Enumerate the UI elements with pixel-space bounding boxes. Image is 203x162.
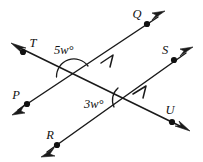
arrowhead-R-icon (41, 148, 55, 157)
arrowhead-S-icon (180, 47, 193, 56)
point-label-P: P (11, 88, 20, 102)
arrowhead-Q-icon (152, 11, 165, 20)
point-dot-P (24, 101, 30, 107)
point-dot-R (54, 142, 60, 148)
point-dot-U (169, 119, 175, 125)
point-dot-S (171, 57, 177, 63)
line-RS-group (41, 47, 193, 157)
point-label-R: R (45, 128, 54, 142)
geometry-figure: Q T S P U R 5w° 3w° (0, 0, 203, 162)
geometry-canvas: Q T S P U R 5w° 3w° (0, 0, 203, 162)
parallel-mark-RS-icon (133, 86, 146, 98)
arrowhead-U-icon (175, 121, 190, 131)
parallel-mark-PQ-icon (101, 55, 113, 67)
angle-label-3w: 3w° (83, 97, 104, 111)
arrowhead-P-icon (12, 105, 25, 115)
point-dot-Q (144, 21, 150, 27)
point-label-Q: Q (132, 7, 141, 21)
point-label-S: S (162, 43, 169, 57)
point-label-T: T (30, 36, 38, 50)
point-dot-T (20, 49, 26, 55)
point-label-U: U (165, 103, 175, 117)
angle-label-5w: 5w° (54, 43, 74, 57)
